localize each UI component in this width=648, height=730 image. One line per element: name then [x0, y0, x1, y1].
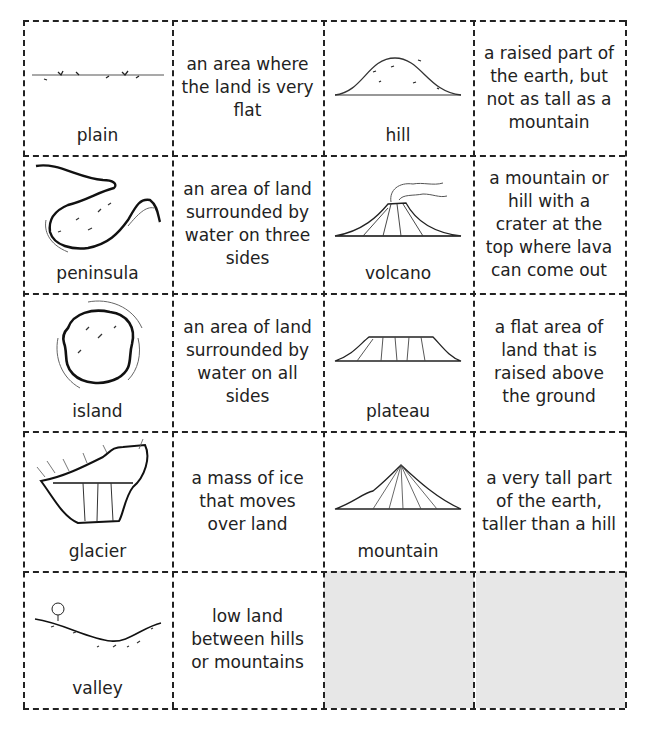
- definition-card-plain: an area where the land is very flat: [172, 20, 323, 155]
- blank-card-1: [324, 571, 474, 708]
- definition-card-island: an area of land surrounded by water on a…: [172, 293, 323, 431]
- definition-text: a mountain or hill with a crater at the …: [481, 167, 617, 282]
- term-card-hill: hill: [323, 20, 473, 155]
- term-label: glacier: [23, 541, 172, 561]
- definition-card-mountain: a very tall part of the earth, taller th…: [473, 431, 625, 571]
- term-label: island: [23, 401, 172, 421]
- cut-out-card-grid: plain an area where the land is very fla…: [23, 20, 625, 708]
- definition-card-glacier: a mass of ice that moves over land: [172, 431, 323, 571]
- term-card-mountain: mountain: [323, 431, 473, 571]
- term-card-valley: valley: [23, 571, 172, 708]
- cut-line: [23, 708, 625, 710]
- blank-card-2: [476, 571, 625, 708]
- definition-card-volcano: a mountain or hill with a crater at the …: [473, 155, 625, 293]
- glacier-icon: [23, 431, 172, 537]
- term-card-peninsula: peninsula: [23, 155, 172, 293]
- plain-icon: [23, 28, 172, 121]
- term-label: valley: [23, 678, 172, 698]
- island-icon: [23, 293, 172, 397]
- definition-text: an area of land surrounded by water on a…: [180, 316, 315, 408]
- definition-card-peninsula: an area of land surrounded by water on t…: [172, 155, 323, 293]
- definition-text: an area where the land is very flat: [180, 53, 315, 122]
- definition-text: a mass of ice that moves over land: [180, 467, 315, 536]
- term-label: plain: [23, 125, 172, 145]
- definition-text: a raised part of the earth, but not as t…: [481, 42, 617, 134]
- definition-card-plateau: a flat area of land that is raised above…: [473, 293, 625, 431]
- peninsula-icon: [23, 155, 172, 259]
- term-card-volcano: volcano: [323, 155, 473, 293]
- definition-card-valley: low land between hills or mountains: [172, 571, 323, 708]
- definition-text: an area of land surrounded by water on t…: [180, 178, 315, 270]
- volcano-icon: [323, 163, 473, 259]
- mountain-icon: [323, 439, 473, 537]
- term-card-plain: plain: [23, 20, 172, 155]
- term-card-glacier: glacier: [23, 431, 172, 571]
- hill-icon: [323, 28, 473, 121]
- term-card-plateau: plateau: [323, 293, 473, 431]
- plateau-icon: [323, 301, 473, 397]
- term-label: plateau: [323, 401, 473, 421]
- term-label: volcano: [323, 263, 473, 283]
- term-label: hill: [323, 125, 473, 145]
- definition-text: low land between hills or mountains: [180, 605, 315, 674]
- term-card-island: island: [23, 293, 172, 431]
- term-label: peninsula: [23, 263, 172, 283]
- definition-card-hill: a raised part of the earth, but not as t…: [473, 20, 625, 155]
- term-label: mountain: [323, 541, 473, 561]
- definition-text: a very tall part of the earth, taller th…: [481, 467, 617, 536]
- valley-icon: [23, 579, 172, 674]
- definition-text: a flat area of land that is raised above…: [481, 316, 617, 408]
- cut-line: [625, 20, 627, 708]
